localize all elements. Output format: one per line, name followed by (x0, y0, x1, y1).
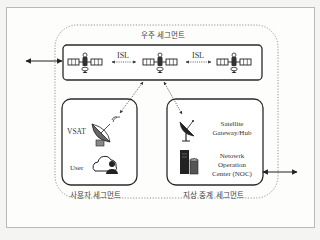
vsat-label: VSAT (67, 128, 86, 136)
gateway-label-line2: Gateway/Hub (204, 130, 260, 137)
space-segment-label: 우주 세그먼트 (141, 32, 185, 40)
gateway-label-line1: Satellite (204, 121, 260, 128)
user-label: User (70, 165, 83, 172)
user-segment-label: 사용자 세그먼트 (70, 192, 121, 200)
ground-segment-label: 지상 중계 세그먼트 (183, 192, 244, 200)
noc-label-line2: Operation (204, 162, 260, 169)
noc-label-line3: Center (NOC) (204, 171, 260, 178)
isl-label: ISL (117, 52, 129, 60)
isl-label: ISL (192, 52, 204, 60)
noc-label-line1: Netowrk (204, 153, 260, 160)
